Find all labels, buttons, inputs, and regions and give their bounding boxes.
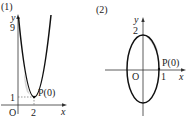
y-tick-1: 1 — [10, 92, 15, 103]
x-tick-1: 1 — [161, 71, 166, 82]
y-axis-label: y — [133, 14, 139, 25]
point-p-label: P(0) — [38, 87, 55, 99]
parabola-curve — [19, 15, 52, 97]
figure: (1) y 9 x O 2 1 P(0) (2) y 2 x O — [0, 0, 188, 120]
motion-shade — [24, 72, 30, 95]
point-p — [158, 68, 160, 70]
x-tick-2: 2 — [31, 107, 36, 118]
x-axis-label: x — [60, 106, 66, 117]
panel-1: (1) y 9 x O 2 1 P(0) — [1, 1, 67, 118]
point-p-label: P(0) — [162, 57, 179, 69]
x-axis-label: x — [178, 71, 184, 82]
origin-label: O — [132, 71, 139, 82]
panel-2: (2) y 2 x O 1 P(0) — [96, 4, 186, 116]
panel-2-label: (2) — [96, 4, 108, 16]
y-tick-9: 9 — [10, 22, 15, 33]
point-p — [33, 96, 35, 98]
origin-label: O — [9, 107, 16, 118]
y-tick-2: 2 — [133, 25, 138, 36]
y-axis-arrow-icon — [141, 17, 144, 22]
